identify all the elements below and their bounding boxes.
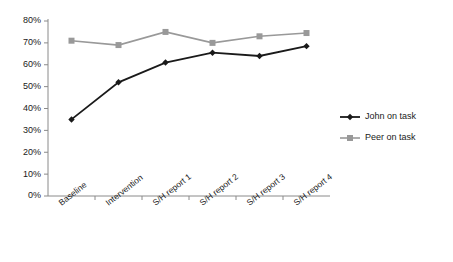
y-tick-label: 40% <box>23 103 41 113</box>
data-point-marker <box>209 50 215 56</box>
y-tick-label: 30% <box>23 125 41 135</box>
data-point-marker <box>163 29 169 35</box>
data-point-marker <box>304 30 310 36</box>
y-tick-label: 80% <box>23 15 41 25</box>
data-point-marker <box>303 43 309 49</box>
legend-marker <box>347 114 353 120</box>
legend-item-2: Peer on task <box>340 132 416 142</box>
data-point-marker <box>210 40 216 46</box>
x-tick-label: Baseline <box>57 179 89 207</box>
data-point-marker <box>257 33 263 39</box>
y-tick-label: 60% <box>23 59 41 69</box>
x-tick-label: S/H report 2 <box>198 171 240 207</box>
legend-item-1: John on task <box>340 111 417 121</box>
data-point-marker <box>69 38 75 44</box>
data-point-marker <box>162 59 168 65</box>
data-point-marker <box>256 53 262 59</box>
series-line-2 <box>72 32 307 45</box>
y-tick-label: 70% <box>23 37 41 47</box>
x-tick-label: Intervention <box>104 172 145 207</box>
legend-label: John on task <box>365 111 417 121</box>
legend-marker <box>347 135 353 141</box>
data-point-marker <box>116 42 122 48</box>
x-tick-label: S/H report 3 <box>245 171 287 207</box>
line-chart: 0%10%20%30%40%50%60%70%80%BaselineInterv… <box>0 0 453 262</box>
y-tick-label: 10% <box>23 169 41 179</box>
y-tick-label: 50% <box>23 81 41 91</box>
x-tick-label: S/H report 1 <box>151 171 193 207</box>
chart-canvas: 0%10%20%30%40%50%60%70%80%BaselineInterv… <box>0 0 453 262</box>
y-tick-label: 0% <box>28 190 41 200</box>
y-tick-label: 20% <box>23 147 41 157</box>
x-tick-label: S/H report 4 <box>292 171 334 207</box>
series-line-1 <box>72 46 307 119</box>
legend-label: Peer on task <box>365 132 416 142</box>
